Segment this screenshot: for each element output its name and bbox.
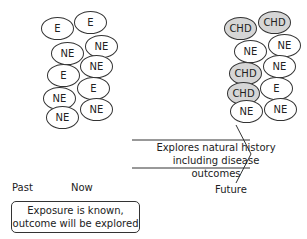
arrow-caption: Explores natural history including disea…	[150, 141, 282, 180]
exposure-note-box: Exposure is known, outcome will be explo…	[11, 201, 140, 233]
arrow-caption-line2: including disease outcomes	[150, 154, 282, 180]
note-line2: outcome will be explored	[12, 217, 139, 230]
label-future: Future	[215, 184, 247, 195]
arrow-caption-line1: Explores natural history	[150, 141, 282, 154]
note-line1: Exposure is known,	[12, 204, 139, 217]
label-now: Now	[71, 182, 93, 193]
label-past: Past	[12, 182, 33, 193]
